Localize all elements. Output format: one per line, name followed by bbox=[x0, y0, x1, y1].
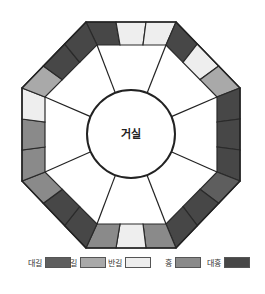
legend-swatch-hyung bbox=[175, 257, 201, 268]
ring-segment-left-2 bbox=[22, 119, 45, 150]
ring-segment-bottom-2 bbox=[116, 224, 146, 248]
legend-label: 반길 bbox=[108, 257, 122, 268]
legend-item-gil: 길 bbox=[70, 255, 106, 269]
spoke-line bbox=[45, 97, 91, 117]
legend-swatch-daehyung bbox=[224, 257, 250, 268]
legend-label: 대길 bbox=[28, 257, 42, 268]
legend-swatch-gil bbox=[80, 257, 106, 268]
center-label: 거실 bbox=[121, 127, 141, 141]
ring-segment-right-2 bbox=[217, 119, 240, 150]
legend-swatch-bangil bbox=[125, 257, 151, 268]
legend-item-bangil: 반길 bbox=[108, 255, 151, 269]
spoke-line bbox=[97, 45, 115, 93]
spoke-line bbox=[45, 152, 91, 172]
legend-swatch-daegil bbox=[45, 257, 71, 268]
legend-label: 대흉 bbox=[207, 257, 221, 268]
legend-item-daegil: 대길 bbox=[28, 255, 71, 269]
legend: 대길 길 반길 흉 대흉 bbox=[0, 255, 265, 275]
spoke-line bbox=[147, 45, 166, 93]
legend-label: 흉 bbox=[165, 257, 172, 268]
legend-item-hyung: 흉 bbox=[165, 255, 201, 269]
spoke-line bbox=[171, 97, 217, 117]
spoke-line bbox=[97, 175, 115, 224]
ring-segment-top-2 bbox=[116, 22, 146, 45]
octagon-diagram: 거실 bbox=[0, 0, 265, 255]
legend-label: 길 bbox=[70, 257, 77, 268]
spoke-line bbox=[171, 152, 217, 172]
legend-item-daehyung: 대흉 bbox=[207, 255, 250, 269]
spoke-line bbox=[147, 175, 166, 224]
